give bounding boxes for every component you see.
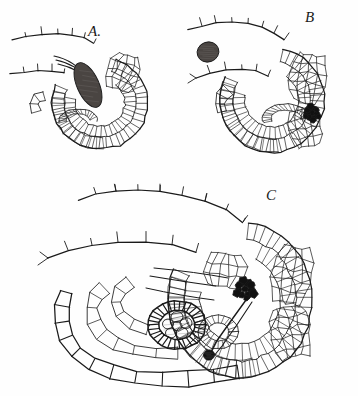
panel-label-a: A. <box>87 23 101 39</box>
figure-plate: A. B C <box>0 0 358 396</box>
background <box>0 0 358 396</box>
panel-label-b: B <box>305 9 314 25</box>
illustration-canvas: A. B C <box>0 0 358 396</box>
panel-label-c: C <box>266 187 277 203</box>
